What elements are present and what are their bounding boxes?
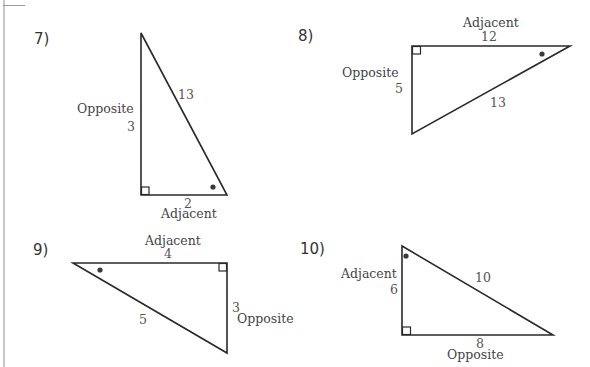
right-triangle (412, 46, 570, 134)
reference-angle-dot-icon (403, 253, 408, 258)
adjacent-value: 4 (164, 246, 172, 261)
reference-angle-dot-icon (97, 267, 102, 272)
problem-number: 7) (34, 30, 49, 48)
reference-angle-dot-icon (539, 51, 544, 56)
opposite-label: Opposite (77, 101, 134, 116)
triangles-sheet: 7) 13 Opposite 3 2 Adjacent 8) Adjacent … (0, 0, 590, 367)
problem-10: 10) Adjacent 6 10 8 Opposite (300, 240, 553, 362)
adjacent-value: 12 (481, 29, 497, 44)
adjacent-label: Adjacent (462, 15, 519, 30)
adjacent-label: Adjacent (340, 266, 397, 281)
hypotenuse-value: 10 (475, 270, 491, 285)
right-angle-marker-icon (142, 187, 150, 195)
problem-number: 10) (300, 240, 325, 258)
problem-7: 7) 13 Opposite 3 2 Adjacent (34, 30, 227, 221)
opposite-label: Opposite (447, 347, 504, 362)
right-triangle (73, 263, 227, 353)
adjacent-label: Adjacent (160, 206, 217, 221)
problem-number: 9) (33, 241, 48, 259)
right-triangle (402, 246, 553, 335)
hypotenuse-value: 5 (139, 312, 147, 327)
opposite-value: 3 (127, 119, 135, 134)
hypotenuse-value: 13 (490, 95, 506, 110)
opposite-value: 5 (395, 81, 403, 96)
adjacent-value: 6 (390, 282, 398, 297)
worksheet-page: 7) 13 Opposite 3 2 Adjacent 8) Adjacent … (0, 0, 590, 367)
problem-number: 8) (298, 27, 313, 45)
reference-angle-dot-icon (210, 184, 215, 189)
opposite-label: Opposite (342, 65, 399, 80)
right-angle-marker-icon (413, 47, 421, 55)
problem-9: 9) Adjacent 4 3 Opposite 5 (33, 233, 294, 353)
adjacent-label: Adjacent (144, 233, 201, 248)
hypotenuse-value: 13 (178, 87, 194, 102)
opposite-label: Opposite (237, 311, 294, 326)
right-angle-marker-icon (219, 264, 227, 272)
problem-8: 8) Adjacent 12 Opposite 5 13 (298, 15, 570, 134)
right-angle-marker-icon (403, 327, 411, 335)
right-triangle (141, 33, 227, 195)
